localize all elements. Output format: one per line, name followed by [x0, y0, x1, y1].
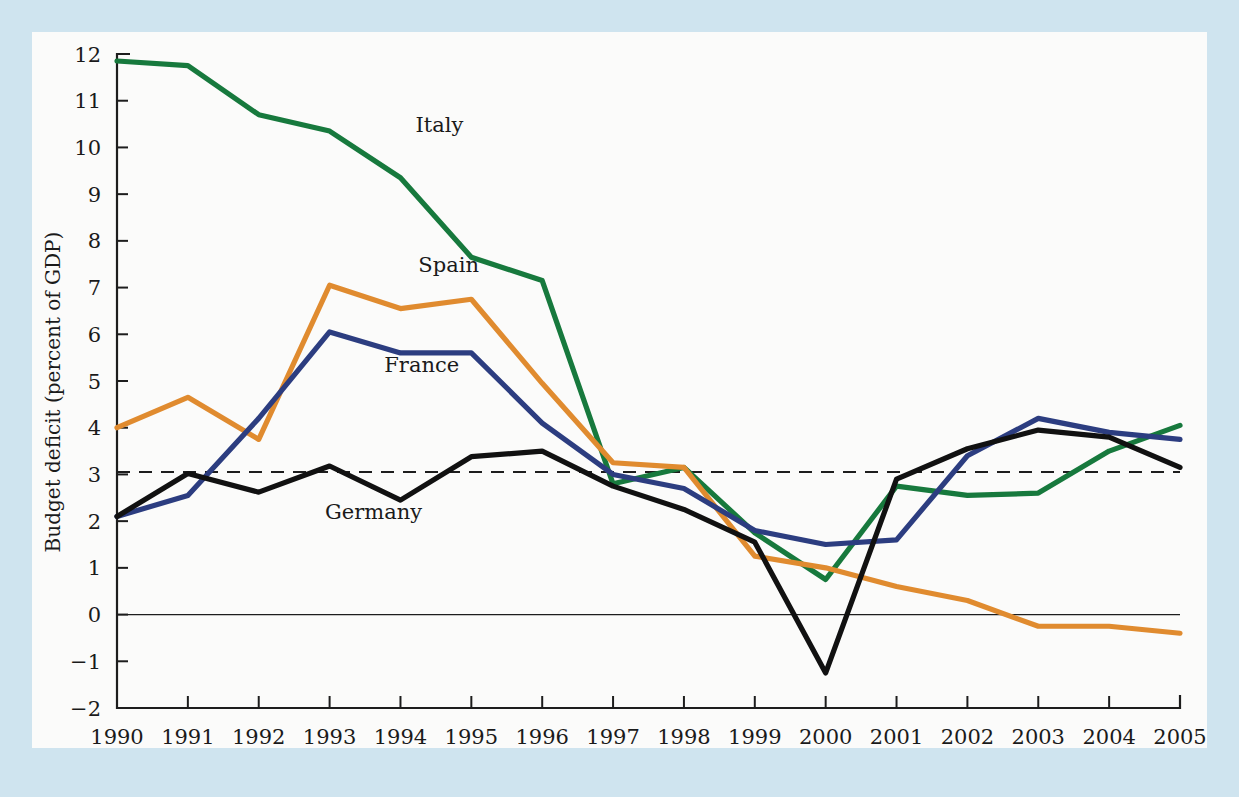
figure-panel: Budget deficit (percent of GDP) 12111098…	[32, 32, 1207, 748]
x-tick-label: 2000	[799, 725, 852, 748]
y-axis-title-text: Budget deficit (percent of GDP)	[41, 232, 65, 553]
series-label-germany: Germany	[325, 500, 422, 524]
y-tick-mark-group	[117, 101, 128, 662]
y-tick-label: −2	[70, 697, 101, 721]
budget-deficit-line-chart: Budget deficit (percent of GDP) 12111098…	[32, 32, 1207, 748]
x-tick-label: 1992	[232, 725, 285, 748]
series-label-italy: Italy	[416, 113, 464, 137]
x-tick-label: 1990	[90, 725, 143, 748]
x-tick-label-group: 1990199119921993199419951996199719981999…	[90, 725, 1206, 748]
x-tick-label: 1994	[374, 725, 427, 748]
x-tick-label: 2005	[1153, 725, 1206, 748]
y-tick-label: 10	[74, 136, 101, 160]
x-tick-label: 2001	[870, 725, 923, 748]
x-tick-label: 1997	[586, 725, 639, 748]
x-tick-label: 1993	[303, 725, 356, 748]
y-tick-label: 6	[88, 323, 101, 347]
series-label-group: ItalySpainFranceGermany	[325, 113, 479, 524]
y-tick-label: 9	[88, 183, 101, 207]
x-tick-label: 1998	[657, 725, 710, 748]
y-tick-label: 12	[74, 43, 101, 67]
x-tick-mark-group	[188, 696, 1109, 708]
y-tick-label: 5	[88, 370, 101, 394]
y-axis-title: Budget deficit (percent of GDP)	[41, 232, 65, 553]
y-tick-label: 3	[88, 463, 101, 487]
series-line-spain	[117, 285, 1180, 633]
axis-spine	[117, 54, 1180, 708]
x-tick-label: 1999	[728, 725, 781, 748]
y-tick-label: 11	[74, 89, 101, 113]
y-tick-label: 4	[88, 416, 101, 440]
x-tick-label: 2003	[1012, 725, 1065, 748]
y-tick-label: 0	[88, 603, 101, 627]
y-tick-label: 1	[88, 556, 101, 580]
y-tick-label: −1	[70, 650, 101, 674]
series-label-spain: Spain	[418, 253, 479, 277]
x-tick-label: 1996	[515, 725, 568, 748]
series-group	[117, 61, 1180, 673]
x-tick-label: 1991	[161, 725, 214, 748]
y-tick-label: 8	[88, 229, 101, 253]
y-tick-label: 2	[88, 510, 101, 534]
y-tick-label-group: 1211109876543210−1−2	[70, 43, 101, 721]
x-tick-label: 2002	[941, 725, 994, 748]
x-tick-label: 1995	[445, 725, 498, 748]
series-line-italy	[117, 61, 1180, 580]
y-tick-label: 7	[88, 276, 101, 300]
series-label-france: France	[384, 353, 459, 377]
x-tick-label: 2004	[1082, 725, 1135, 748]
series-line-france	[117, 332, 1180, 545]
